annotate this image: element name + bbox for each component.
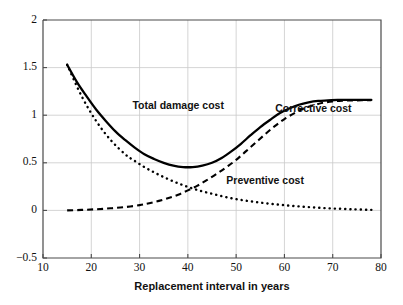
x-tick-label: 40 xyxy=(182,261,194,273)
chart-figure: 21.510.50−0.5 1020304050607080 Total dam… xyxy=(0,0,403,305)
x-tick-label: 10 xyxy=(37,261,49,273)
y-tick-label: −0.5 xyxy=(16,251,37,263)
annotation-total-damage-cost: Total damage cost xyxy=(132,99,224,111)
x-tick-label: 80 xyxy=(375,261,387,273)
cost-vs-replacement-interval-chart: 21.510.50−0.5 1020304050607080 Total dam… xyxy=(0,0,403,305)
y-tick-label: 0 xyxy=(31,203,37,215)
x-tick-label: 60 xyxy=(279,261,291,273)
x-tick-label: 70 xyxy=(327,261,339,273)
chart-background xyxy=(0,0,403,305)
annotation-preventive-cost: Preventive cost xyxy=(226,174,304,186)
x-axis-title: Replacement interval in years xyxy=(134,280,289,292)
y-tick-label: 0.5 xyxy=(23,155,38,167)
y-tick-label: 1.5 xyxy=(23,60,38,72)
y-tick-label: 2 xyxy=(31,13,37,25)
x-tick-label: 50 xyxy=(230,261,242,273)
y-tick-label: 1 xyxy=(31,108,37,120)
x-tick-label: 30 xyxy=(134,261,146,273)
x-tick-label: 20 xyxy=(86,261,98,273)
annotation-corrective-cost: Corrective cost xyxy=(275,102,352,114)
